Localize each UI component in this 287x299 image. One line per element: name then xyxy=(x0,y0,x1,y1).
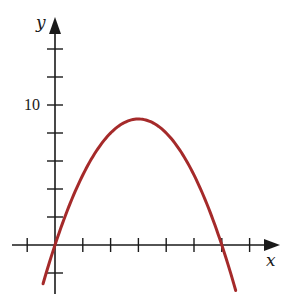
axes xyxy=(12,30,266,294)
parabola-chart: y x 10 xyxy=(0,0,287,299)
y-tick-label-10: 10 xyxy=(24,96,40,113)
y-axis-arrow-icon xyxy=(49,17,61,34)
y-axis-label: y xyxy=(35,12,46,32)
x-axis-label: x xyxy=(266,250,276,270)
parabola-curve xyxy=(43,119,236,290)
